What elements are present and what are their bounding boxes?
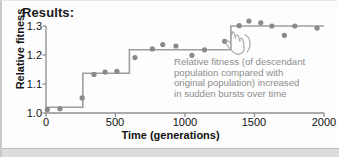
data-point [132, 55, 137, 60]
data-point [80, 95, 85, 100]
footer-band [2, 148, 339, 157]
data-point [57, 106, 62, 111]
data-point [150, 46, 155, 51]
pointing-hand-icon [218, 27, 258, 65]
data-point [173, 43, 178, 48]
data-point [314, 25, 319, 30]
data-point [246, 18, 251, 23]
data-point [202, 47, 207, 52]
data-point [91, 72, 96, 77]
data-point [258, 20, 263, 25]
data-point [45, 107, 50, 112]
data-point [160, 42, 165, 47]
data-point [292, 23, 297, 28]
data-point [269, 23, 274, 28]
chart-plot-area: 1.3 1.2 1.1 1.0 0 500 1000 1500 2000 Rel… [2, 1, 339, 149]
data-point [282, 33, 287, 38]
data-point [114, 69, 119, 74]
data-point [102, 70, 107, 75]
